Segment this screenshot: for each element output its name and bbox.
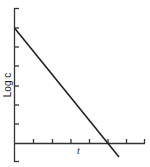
chart-svg xyxy=(0,0,150,167)
x-axis-label: t xyxy=(77,145,80,156)
data-line xyxy=(15,28,120,157)
y-axis-label: Log c xyxy=(1,67,15,103)
